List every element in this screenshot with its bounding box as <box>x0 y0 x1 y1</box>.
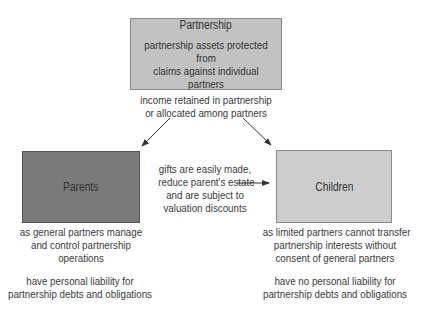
children-transfer-label: as limited partners cannot transfer part… <box>263 226 408 265</box>
gifts-label: gifts are easily made, reduce parent's e… <box>158 163 252 215</box>
label-line: have no personal liability for <box>263 275 408 288</box>
label-line: as limited partners cannot transfer <box>263 226 408 239</box>
label-line: income retained in partnership <box>138 94 274 107</box>
label-line: partnership interests without <box>263 239 408 252</box>
children-box: Children <box>276 150 392 223</box>
label-line: or allocated among partners <box>138 107 274 120</box>
label-line: operations <box>17 252 145 265</box>
partnership-description-line: claims against individual partners <box>142 65 270 91</box>
label-line: consent of general partners <box>263 252 408 265</box>
children-title: Children <box>315 180 353 194</box>
parents-title: Parents <box>63 180 98 194</box>
arrow-partnership-to-children <box>243 118 271 145</box>
parents-box: Parents <box>22 151 140 223</box>
parents-control-label: as general partners manage and control p… <box>17 226 145 265</box>
income-label: income retained in partnership or alloca… <box>138 94 274 120</box>
label-line: have personal liability for <box>7 275 153 288</box>
partnership-title: Partnership <box>180 18 232 32</box>
label-line: partnership debts and obligations <box>263 288 408 301</box>
label-line: and control partnership <box>17 239 145 252</box>
partnership-box: Partnership partnership assets protected… <box>130 18 282 90</box>
label-line: and are subject to <box>158 189 252 202</box>
partnership-description: partnership assets protected from claims… <box>142 39 270 91</box>
partnership-description-line: partnership assets protected from <box>142 39 270 65</box>
label-line: reduce parent's estate <box>158 176 252 189</box>
label-line: valuation discounts <box>158 202 252 215</box>
label-line: as general partners manage <box>17 226 145 239</box>
parents-liability-label: have personal liability for partnership … <box>7 275 153 301</box>
arrow-partnership-to-parents <box>142 118 170 146</box>
children-liability-label: have no personal liability for partnersh… <box>263 275 408 301</box>
label-line: gifts are easily made, <box>158 163 252 176</box>
label-line: partnership debts and obligations <box>7 288 153 301</box>
